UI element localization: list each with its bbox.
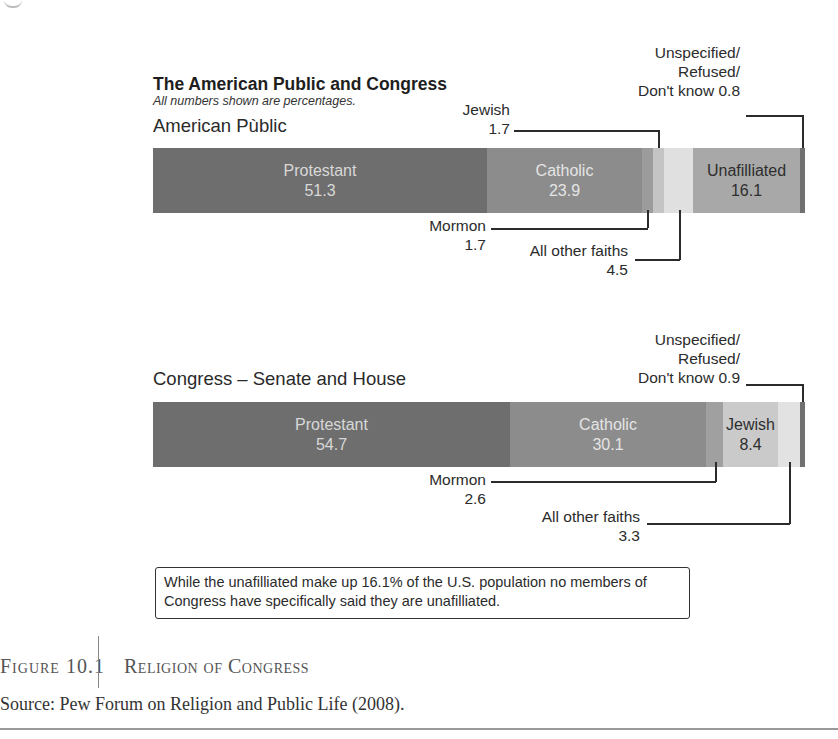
bottom-rule <box>0 728 838 730</box>
figure-number: Figure 10.1 <box>0 655 105 678</box>
public-other-name: All other faiths <box>490 241 628 260</box>
public-mormon-leader-drop <box>647 210 649 228</box>
public-segment-catholic: Catholic 23.9 <box>487 148 642 213</box>
public-jewish-name: Jewish <box>456 100 510 119</box>
public-other-leader-drop <box>679 210 681 260</box>
congress-mormon-value: 2.6 <box>400 489 486 508</box>
public-mormon-annotation: Mormon 1.7 <box>400 216 486 254</box>
public-unspecified-annotation: Unspecified/ Refused/ Don't know 0.8 <box>580 43 740 100</box>
congress-unspecified-leader <box>746 384 803 386</box>
congress-segment-mormon <box>706 402 723 467</box>
segment-label: Catholic <box>579 415 637 435</box>
chart-subtitle: All numbers shown are percentages. <box>153 94 356 108</box>
congress-unspecified-line1: Unspecified/ <box>580 330 740 349</box>
congress-other-leader <box>647 523 790 525</box>
public-segment-mormon <box>642 148 653 213</box>
figure-title: Religion of Congress <box>124 655 309 678</box>
public-mormon-leader <box>491 228 648 230</box>
page-fragment-mark <box>4 0 22 8</box>
congress-other-leader-drop <box>789 462 791 524</box>
segment-label: Protestant <box>284 161 357 181</box>
segment-value: 16.1 <box>731 181 762 201</box>
segment-value: 8.4 <box>739 435 761 455</box>
congress-segment-catholic: Catholic 30.1 <box>510 402 706 467</box>
congress-segment-protestant: Protestant 54.7 <box>153 402 510 467</box>
congress-mormon-name: Mormon <box>400 470 486 489</box>
caption-divider <box>98 636 99 688</box>
public-jewish-leader <box>514 130 659 132</box>
figure-source: Source: Pew Forum on Religion and Public… <box>0 694 404 715</box>
public-unspecified-line3: Don't know 0.8 <box>580 81 740 100</box>
congress-unspecified-line3: Don't know 0.9 <box>580 368 740 387</box>
note-box: While the unafilliated make up 16.1% of … <box>155 567 690 619</box>
segment-value: 54.7 <box>316 435 347 455</box>
congress-unspecified-annotation: Unspecified/ Refused/ Don't know 0.9 <box>580 330 740 387</box>
public-jewish-annotation: Jewish 1.7 <box>456 100 510 138</box>
public-other-leader <box>635 259 680 261</box>
congress-other-value: 3.3 <box>500 526 640 545</box>
public-segment-protestant: Protestant 51.3 <box>153 148 487 213</box>
public-unspecified-line2: Refused/ <box>580 62 740 81</box>
public-unspecified-line1: Unspecified/ <box>580 43 740 62</box>
congress-other-name: All other faiths <box>500 507 640 526</box>
segment-label: Jewish <box>726 415 775 435</box>
congress-segment-unspecified <box>800 402 805 467</box>
congress-other-annotation: All other faiths 3.3 <box>500 507 640 545</box>
public-unspecified-leader <box>746 115 803 117</box>
segment-label: Unafilliated <box>707 161 786 181</box>
congress-segment-other <box>778 402 800 467</box>
public-group-label: American Pùblic <box>153 115 287 137</box>
congress-mormon-leader <box>491 481 716 483</box>
public-stacked-bar: Protestant 51.3 Catholic 23.9 Unafilliat… <box>153 148 805 213</box>
segment-value: 51.3 <box>304 181 335 201</box>
public-segment-jewish <box>653 148 664 213</box>
public-segment-unspecified <box>800 148 805 213</box>
chart-title: The American Public and Congress <box>153 74 447 95</box>
congress-segment-jewish: Jewish 8.4 <box>723 402 778 467</box>
public-segment-unaffiliated: Unafilliated 16.1 <box>693 148 800 213</box>
public-other-value: 4.5 <box>490 260 628 279</box>
segment-label: Protestant <box>295 415 368 435</box>
congress-mormon-leader-drop <box>715 462 717 482</box>
public-segment-other <box>664 148 693 213</box>
public-mormon-name: Mormon <box>400 216 486 235</box>
public-other-annotation: All other faiths 4.5 <box>490 241 628 279</box>
segment-value: 30.1 <box>592 435 623 455</box>
congress-unspecified-line2: Refused/ <box>580 349 740 368</box>
segment-value: 23.9 <box>549 181 580 201</box>
congress-stacked-bar: Protestant 54.7 Catholic 30.1 Jewish 8.4 <box>153 402 805 467</box>
public-mormon-value: 1.7 <box>400 235 486 254</box>
segment-label: Catholic <box>536 161 594 181</box>
public-jewish-value: 1.7 <box>456 119 510 138</box>
congress-mormon-annotation: Mormon 2.6 <box>400 470 486 508</box>
congress-group-label: Congress – Senate and House <box>153 368 406 390</box>
